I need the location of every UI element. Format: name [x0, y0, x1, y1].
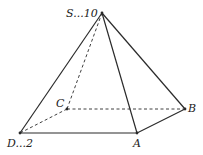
label-B: B [187, 102, 196, 115]
edge-SC-hidden [67, 13, 102, 109]
edge-SA [102, 13, 137, 133]
label-S: S...10 [66, 7, 98, 20]
edge-CD-hidden [20, 109, 67, 133]
label-C: C [56, 97, 65, 110]
vertex-C [66, 108, 69, 111]
vertex-S [101, 12, 104, 15]
vertex-A [136, 132, 139, 135]
vertex-D [19, 132, 22, 135]
pyramid-diagram: S...10 A B C D...2 [0, 0, 203, 155]
edge-SD [20, 13, 102, 133]
edge-AB [137, 109, 185, 133]
label-D: D...2 [6, 137, 33, 150]
vertex-B [184, 108, 187, 111]
label-A: A [132, 137, 141, 150]
edge-SB [102, 13, 185, 109]
